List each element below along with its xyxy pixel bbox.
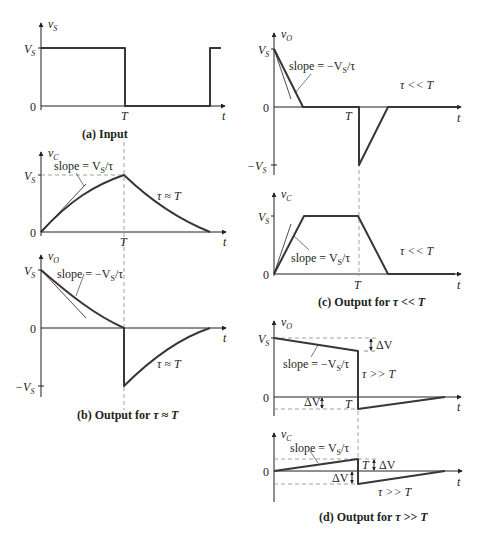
slope-annotation: slope = −VS/τ: [283, 357, 349, 373]
y-axis-label: vO: [48, 249, 59, 265]
zero-tick-label: 0: [30, 100, 36, 114]
T-tick-label: T: [362, 458, 370, 472]
slope-annotation: slope = VS/τ: [54, 159, 113, 175]
y-axis-label: vC: [281, 187, 292, 203]
delta-v-upper-label: ΔV: [376, 338, 393, 352]
panel-c-caption: (c) Output for τ << T: [318, 295, 426, 309]
input-square-wave: [41, 48, 221, 106]
panel-c-bottom-vc: vC VS 0 T t slope = VS/τ τ << T (c) Outp…: [258, 187, 461, 309]
panel-b-caption: (b) Output for τ ≈ T: [77, 408, 179, 422]
vs-tick-label: VS: [24, 169, 35, 185]
regime-label: τ ≈ T: [157, 189, 182, 203]
t-axis-label: t: [457, 278, 461, 292]
panel-a-input: vS VS 0 T t (a) Input: [24, 17, 226, 141]
regime-label: τ << T: [400, 244, 434, 258]
delta-v-lower-label: ΔV: [304, 395, 321, 409]
vs-tick-label: VS: [24, 42, 35, 58]
delta-v-lower-label: ΔV: [332, 471, 349, 485]
T-tick-label: T: [345, 109, 353, 123]
T-tick-label: T: [120, 235, 128, 249]
panel-c-top-vo: vO VS 0 −VS T t slope = −VS/τ τ << T: [247, 27, 461, 276]
vs-tick-label: VS: [258, 210, 269, 226]
y-axis-label: vS: [48, 17, 57, 33]
zero-tick-label: 0: [263, 101, 269, 115]
T-tick-label: T: [354, 278, 362, 292]
zero-tick-label: 0: [263, 465, 269, 479]
slope-annotation: slope = VS/τ: [290, 441, 349, 457]
delta-v-upper-label: ΔV: [379, 458, 396, 472]
regime-label: τ << T: [400, 78, 434, 92]
y-axis-label: vO: [281, 27, 292, 43]
zero-tick-label: 0: [30, 226, 36, 240]
zero-tick-label: 0: [30, 322, 36, 336]
panel-b-bottom-vo: vO VS 0 −VS t slope = −VS/τ τ ≈ T (b) Ou…: [15, 249, 227, 422]
panel-d-caption: (d) Output for τ >> T: [319, 510, 428, 524]
vs-tick-label: VS: [258, 332, 269, 348]
slope-annotation: slope = −VS/τ: [57, 267, 123, 283]
tangent-slope-line: [274, 224, 291, 274]
tangent-slope-line: [41, 184, 86, 232]
panel-d-bottom-vc: vC 0 T t slope = VS/τ τ >> T ΔV ΔV (d) O…: [263, 427, 462, 524]
regime-label: τ ≈ T: [157, 357, 182, 371]
vo-tilt-waveform: [274, 338, 445, 409]
slope-annotation: slope = −VS/τ: [289, 59, 355, 75]
t-axis-label: t: [457, 475, 461, 489]
vs-tick-label: VS: [258, 43, 269, 59]
t-axis-label: t: [457, 400, 461, 414]
zero-tick-label: 0: [263, 268, 269, 282]
panel-b-top-vc: vC VS 0 T t slope = VS/τ τ ≈ T: [24, 142, 227, 410]
rc-response-figure: vS VS 0 T t (a) Input vC VS 0 T t slope …: [0, 0, 481, 535]
neg-vs-tick-label: −VS: [247, 159, 266, 175]
regime-label: τ >> T: [378, 485, 412, 499]
t-axis-label: t: [222, 109, 226, 123]
regime-label: τ >> T: [362, 367, 396, 381]
t-axis-label: t: [457, 111, 461, 125]
tangent-slope-line: [274, 49, 291, 99]
neg-vs-tick-label: −VS: [15, 380, 34, 396]
T-tick-label: T: [121, 109, 129, 123]
t-axis-label: t: [223, 331, 227, 345]
y-axis-label: vO: [281, 315, 292, 331]
slope-annotation: slope = VS/τ: [291, 251, 350, 267]
t-axis-label: t: [223, 235, 227, 249]
vc-charge-discharge-curve: [41, 175, 210, 232]
zero-tick-label: 0: [263, 391, 269, 405]
vs-tick-label: VS: [24, 264, 35, 280]
panel-a-caption: (a) Input: [82, 127, 128, 141]
panel-d-top-vo: vO VS 0 T t slope = −VS/τ τ >> T ΔV ΔV: [258, 315, 461, 488]
